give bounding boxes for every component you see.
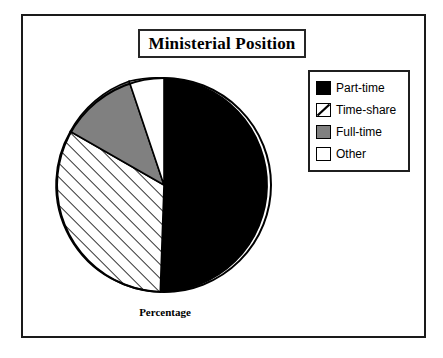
solid-black-swatch-icon [316, 81, 331, 95]
legend-label-other: Other [336, 148, 366, 160]
diagonal-hatch-swatch-icon [316, 103, 331, 117]
page-title: Ministerial Position [148, 34, 295, 54]
legend-item-part-time: Part-time [316, 77, 408, 99]
chart-title-box: Ministerial Position [138, 29, 306, 58]
solid-gray-swatch-icon [316, 125, 331, 139]
legend-item-other: Other [316, 143, 408, 165]
pie-chart-figure: Ministerial Position [0, 0, 443, 358]
legend-item-time-share: Time-share [316, 99, 408, 121]
legend-label-full-time: Full-time [336, 126, 382, 138]
pie-svg [52, 73, 276, 297]
legend-label-time-share: Time-share [336, 104, 396, 116]
legend: Part-time Time-share Full-time Other [308, 70, 410, 172]
pie-plot-area [52, 73, 276, 297]
pie-slice-part-time [160, 78, 267, 292]
solid-white-swatch-icon [316, 147, 331, 161]
axis-caption: Percentage [0, 306, 330, 318]
legend-label-part-time: Part-time [336, 82, 385, 94]
legend-item-full-time: Full-time [316, 121, 408, 143]
